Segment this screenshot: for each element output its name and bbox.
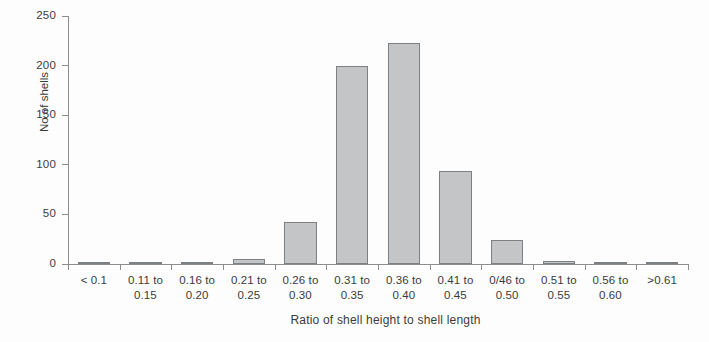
x-axis-tick-label-line: < 0.1 xyxy=(68,273,120,288)
y-axis-tick-label: 250 xyxy=(0,9,56,21)
bar xyxy=(594,262,626,264)
bar xyxy=(646,262,678,264)
x-axis-tick-label: 0.31 to0.35 xyxy=(326,273,378,303)
x-axis-tick-mark xyxy=(171,265,172,270)
x-axis-tick-label-line: 0.25 xyxy=(223,288,275,303)
x-axis-tick-mark xyxy=(636,265,637,270)
x-axis-tick-mark xyxy=(378,265,379,270)
bar xyxy=(78,262,110,264)
histogram-chart: No of shells 050100150200250 < 0.10.11 t… xyxy=(0,0,709,342)
x-axis-tick-label: 0.26 to0.30 xyxy=(275,273,327,303)
x-axis-tick-label: 0.36 to0.40 xyxy=(378,273,430,303)
x-axis-tick-label-line: 0.15 xyxy=(120,288,172,303)
x-axis-tick-label-line: 0.40 xyxy=(378,288,430,303)
x-axis-title: Ratio of shell height to shell length xyxy=(0,313,709,327)
x-axis-tick-label-line: 0.16 to xyxy=(171,273,223,288)
x-axis-tick-label-line: 0.41 to xyxy=(430,273,482,288)
x-axis-tick-label-line: 0/46 to xyxy=(481,273,533,288)
x-axis-tick-label-line: 0.31 to xyxy=(326,273,378,288)
x-axis-tick-label-line: 0.26 to xyxy=(275,273,327,288)
y-axis-tick-label: 0 xyxy=(0,257,56,269)
bar xyxy=(491,240,523,264)
x-axis-tick-label: 0.51 to0.55 xyxy=(533,273,585,303)
x-axis-tick-label-line: 0.35 xyxy=(326,288,378,303)
x-axis-tick-label-line: 0.20 xyxy=(171,288,223,303)
x-axis-tick-mark xyxy=(481,265,482,270)
x-axis-tick-label: < 0.1 xyxy=(68,273,120,288)
x-axis-tick-label-line: 0.55 xyxy=(533,288,585,303)
x-axis-tick-label-line: 0.45 xyxy=(430,288,482,303)
x-axis-tick-mark xyxy=(688,265,689,270)
x-axis-tick-mark xyxy=(275,265,276,270)
x-axis-tick-mark xyxy=(68,265,69,270)
x-axis-tick-label-line: 0.51 to xyxy=(533,273,585,288)
bar xyxy=(284,222,316,264)
x-axis-tick-label-line: 0.50 xyxy=(481,288,533,303)
x-axis-tick-mark xyxy=(585,265,586,270)
plot-area xyxy=(68,16,688,264)
x-axis-tick-label: 0.11 to0.15 xyxy=(120,273,172,303)
x-axis-tick-label-line: 0.36 to xyxy=(378,273,430,288)
x-axis-tick-label-line: 0.21 to xyxy=(223,273,275,288)
bar xyxy=(388,43,420,264)
bar xyxy=(336,66,368,264)
x-axis-tick-label-line: 0.56 to xyxy=(585,273,637,288)
bar xyxy=(543,261,575,264)
x-axis-tick-label: 0.56 to0.60 xyxy=(585,273,637,303)
y-axis-tick-label: 50 xyxy=(0,207,56,219)
x-axis-tick-mark xyxy=(326,265,327,270)
x-axis-tick-label: 0.21 to0.25 xyxy=(223,273,275,303)
y-axis-tick-label: 200 xyxy=(0,59,56,71)
x-axis-tick-mark xyxy=(120,265,121,270)
x-axis-tick-mark xyxy=(430,265,431,270)
x-axis-tick-label-line: >0.61 xyxy=(636,273,688,288)
x-axis-tick-mark xyxy=(223,265,224,270)
bar xyxy=(233,259,265,264)
y-axis-tick-label: 100 xyxy=(0,158,56,170)
bar xyxy=(129,262,161,264)
x-axis-tick-mark xyxy=(533,265,534,270)
x-axis-tick-label: 0.16 to0.20 xyxy=(171,273,223,303)
x-axis-tick-label: 0.41 to0.45 xyxy=(430,273,482,303)
x-axis-tick-label-line: 0.60 xyxy=(585,288,637,303)
x-axis-tick-label: >0.61 xyxy=(636,273,688,288)
x-axis-tick-label: 0/46 to0.50 xyxy=(481,273,533,303)
bar xyxy=(439,171,471,264)
x-axis-tick-label-line: 0.30 xyxy=(275,288,327,303)
bar xyxy=(181,262,213,264)
y-axis-tick-label: 150 xyxy=(0,108,56,120)
x-axis-tick-label-line: 0.11 to xyxy=(120,273,172,288)
